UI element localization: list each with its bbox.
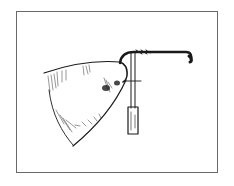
wire-tip [189,56,191,62]
handle-tube [128,107,138,134]
cone-dark-patches [102,81,120,92]
cone-top-edge [44,61,120,73]
vertical-rod [131,53,135,108]
cone-left-edge [49,90,73,145]
cone-right-edge [73,80,126,146]
illustration [0,0,234,186]
cone-rim [120,62,127,82]
